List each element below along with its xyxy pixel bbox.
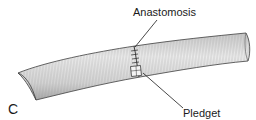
pledget-label: Pledget — [183, 108, 220, 119]
pledget-leader-line — [143, 73, 183, 108]
panel-letter: C — [8, 102, 18, 116]
vessel-illustration — [0, 0, 256, 120]
anastomosis-label: Anastomosis — [133, 7, 196, 18]
pledget — [131, 66, 142, 77]
